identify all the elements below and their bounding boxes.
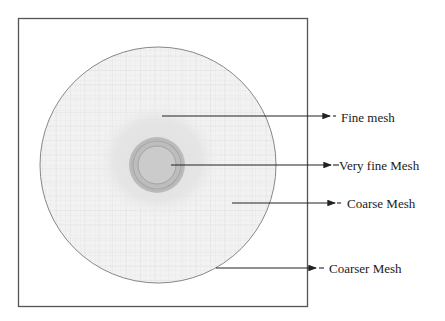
label-very-fine-mesh: Very fine Mesh <box>339 159 419 172</box>
label-fine-mesh: Fine mesh <box>341 111 395 124</box>
label-coarser-mesh: Coarser Mesh <box>329 262 402 275</box>
label-coarse-mesh: Coarse Mesh <box>347 197 415 210</box>
mesh-diagram: Fine mesh Very fine Mesh Coarse Mesh Coa… <box>0 0 445 321</box>
